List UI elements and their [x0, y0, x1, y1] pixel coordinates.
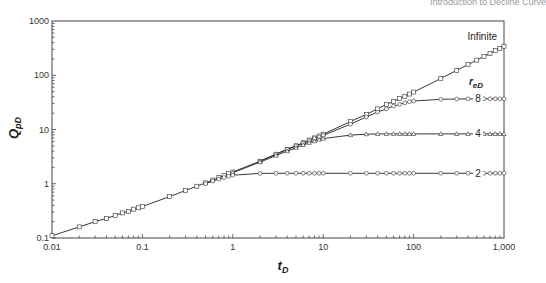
- marker-circle: [498, 97, 502, 101]
- marker-square: [412, 90, 416, 94]
- marker-circle: [227, 174, 231, 178]
- x-axis-label: tD: [278, 258, 289, 275]
- marker-square: [93, 220, 97, 224]
- marker-circle: [412, 99, 416, 103]
- marker-square: [184, 189, 188, 193]
- marker-circle: [403, 101, 407, 105]
- marker-circle: [392, 171, 396, 175]
- marker-circle: [488, 171, 492, 175]
- marker-circle: [408, 100, 412, 104]
- x-tick-label: 100: [406, 242, 421, 252]
- y-tick-label: 0.1: [36, 233, 49, 243]
- marker-circle: [439, 171, 443, 175]
- annotation-red-8: 8: [475, 93, 481, 104]
- marker-circle: [274, 171, 278, 175]
- y-tick-label: 1000: [29, 16, 49, 26]
- x-tick-label: 0.01: [43, 242, 61, 252]
- marker-circle: [349, 171, 353, 175]
- marker-circle: [498, 171, 502, 175]
- marker-square: [50, 234, 54, 238]
- marker-circle: [392, 104, 396, 108]
- marker-square: [475, 58, 479, 62]
- marker-square: [403, 94, 407, 98]
- annotation-red: reD: [469, 76, 483, 90]
- marker-circle: [384, 171, 388, 175]
- series-line-4: [233, 134, 504, 173]
- marker-circle: [364, 115, 368, 119]
- marker-circle: [294, 171, 298, 175]
- x-tick-label: 1: [230, 242, 235, 252]
- marker-circle: [398, 103, 402, 107]
- annotation-infinite: Infinite: [468, 31, 498, 42]
- marker-circle: [408, 171, 412, 175]
- marker-circle: [502, 171, 506, 175]
- marker-square: [398, 97, 402, 101]
- y-tick-label: 100: [34, 70, 49, 80]
- marker-circle: [349, 122, 353, 126]
- marker-circle: [398, 171, 402, 175]
- series-line-8: [260, 99, 504, 161]
- marker-circle: [455, 97, 459, 101]
- y-tick-label: 10: [39, 125, 49, 135]
- marker-square: [132, 207, 136, 211]
- series-line-2: [206, 173, 504, 184]
- marker-circle: [412, 171, 416, 175]
- marker-circle: [493, 97, 497, 101]
- marker-circle: [301, 171, 305, 175]
- marker-square: [482, 54, 486, 58]
- marker-circle: [403, 171, 407, 175]
- marker-square: [104, 216, 108, 220]
- marker-circle: [384, 107, 388, 111]
- marker-square: [493, 49, 497, 53]
- marker-square: [168, 195, 172, 199]
- marker-square: [384, 102, 388, 106]
- marker-square: [126, 209, 130, 213]
- marker-circle: [258, 172, 262, 176]
- marker-circle: [211, 179, 215, 183]
- marker-square: [466, 63, 470, 67]
- series-line-infinite: [52, 46, 504, 236]
- marker-circle: [466, 97, 470, 101]
- y-axis-label: QpD: [6, 116, 23, 139]
- y-tick-label: 1: [44, 179, 49, 189]
- marker-square: [195, 184, 199, 188]
- marker-circle: [376, 110, 380, 114]
- marker-square: [488, 51, 492, 55]
- annotation-red-4: 4: [475, 128, 481, 139]
- marker-circle: [376, 171, 380, 175]
- marker-circle: [439, 97, 443, 101]
- marker-circle: [285, 171, 289, 175]
- marker-square: [407, 92, 411, 96]
- marker-square: [120, 211, 124, 215]
- annotation-red-2: 2: [475, 168, 481, 179]
- x-tick-label: 10: [318, 242, 328, 252]
- plot-frame: [52, 21, 504, 238]
- marker-square: [455, 68, 459, 72]
- marker-circle: [502, 97, 506, 101]
- marker-circle: [321, 171, 325, 175]
- marker-circle: [493, 171, 497, 175]
- marker-square: [498, 46, 502, 50]
- marker-circle: [455, 171, 459, 175]
- marker-circle: [307, 171, 311, 175]
- marker-square: [502, 44, 506, 48]
- marker-circle: [488, 97, 492, 101]
- marker-square: [136, 206, 140, 210]
- marker-circle: [231, 173, 235, 177]
- marker-circle: [222, 176, 226, 180]
- marker-square: [392, 99, 396, 103]
- x-tick-label: 0.1: [136, 242, 149, 252]
- marker-circle: [217, 177, 221, 181]
- marker-circle: [313, 171, 317, 175]
- marker-circle: [204, 182, 208, 186]
- marker-square: [77, 225, 81, 229]
- marker-square: [140, 205, 144, 209]
- marker-circle: [466, 171, 470, 175]
- marker-square: [113, 213, 117, 217]
- marker-circle: [364, 171, 368, 175]
- marker-circle: [317, 171, 321, 175]
- x-tick-label: 1,000: [493, 242, 516, 252]
- marker-square: [439, 77, 443, 81]
